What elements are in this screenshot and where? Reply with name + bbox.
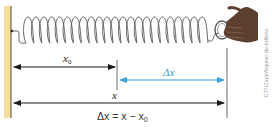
- displacement-equation: Δx = x − x0: [97, 110, 148, 123]
- spring: [11, 17, 219, 43]
- image-credit: CJT/Zapt/Arquivo da editora: [263, 29, 269, 98]
- wall: [4, 6, 11, 118]
- x-label: x: [112, 90, 117, 101]
- x0-label: x0: [63, 53, 71, 68]
- spring-diagram: [0, 0, 280, 127]
- delta-x-label: Δx: [163, 67, 174, 78]
- hand: [215, 7, 258, 42]
